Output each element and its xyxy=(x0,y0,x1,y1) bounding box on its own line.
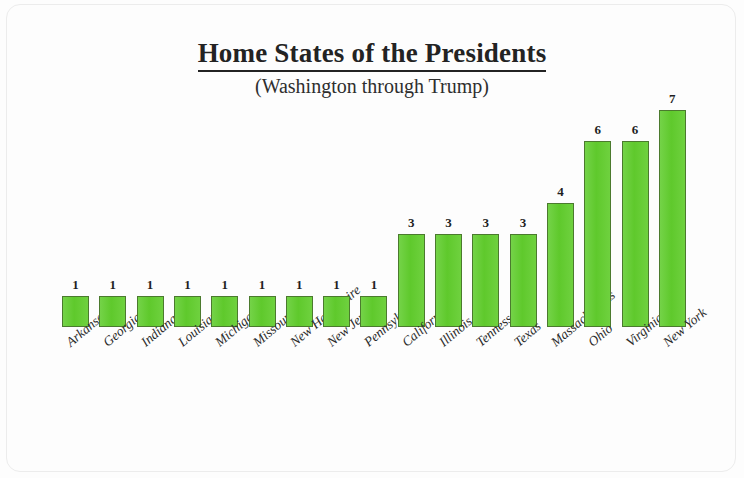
chart-image: Home States of the Presidents (Washingto… xyxy=(0,0,744,478)
plot-area: 1Arkansas1Georgia1Indiana1Louisiana1Mich… xyxy=(0,0,744,478)
bar-value-label: 3 xyxy=(398,215,425,231)
bar xyxy=(510,234,537,327)
bar-value-label: 1 xyxy=(249,277,276,293)
bar-value-label: 3 xyxy=(510,215,537,231)
bar xyxy=(435,234,462,327)
bar xyxy=(547,203,574,327)
bar-fill xyxy=(548,204,573,326)
bar-value-label: 3 xyxy=(472,215,499,231)
bar-fill xyxy=(511,235,536,326)
bar-value-label: 1 xyxy=(174,277,201,293)
bar-value-label: 4 xyxy=(547,184,574,200)
bar-value-label: 1 xyxy=(62,277,89,293)
bar-value-label: 6 xyxy=(584,122,611,138)
bar-value-label: 3 xyxy=(435,215,462,231)
bar-value-label: 1 xyxy=(211,277,238,293)
bar-fill xyxy=(436,235,461,326)
bar-fill xyxy=(660,111,685,326)
bar-value-label: 7 xyxy=(659,91,686,107)
bar-value-label: 1 xyxy=(99,277,126,293)
bar-value-label: 1 xyxy=(286,277,313,293)
bar xyxy=(659,110,686,327)
bar-fill xyxy=(473,235,498,326)
bar-value-label: 6 xyxy=(622,122,649,138)
bar xyxy=(472,234,499,327)
bar-value-label: 1 xyxy=(323,277,350,293)
bar-fill xyxy=(585,142,610,326)
bar xyxy=(584,141,611,327)
bar-value-label: 1 xyxy=(137,277,164,293)
bar-value-label: 1 xyxy=(360,277,387,293)
bar xyxy=(398,234,425,327)
bar-fill xyxy=(623,142,648,326)
bar xyxy=(622,141,649,327)
bar-fill xyxy=(399,235,424,326)
